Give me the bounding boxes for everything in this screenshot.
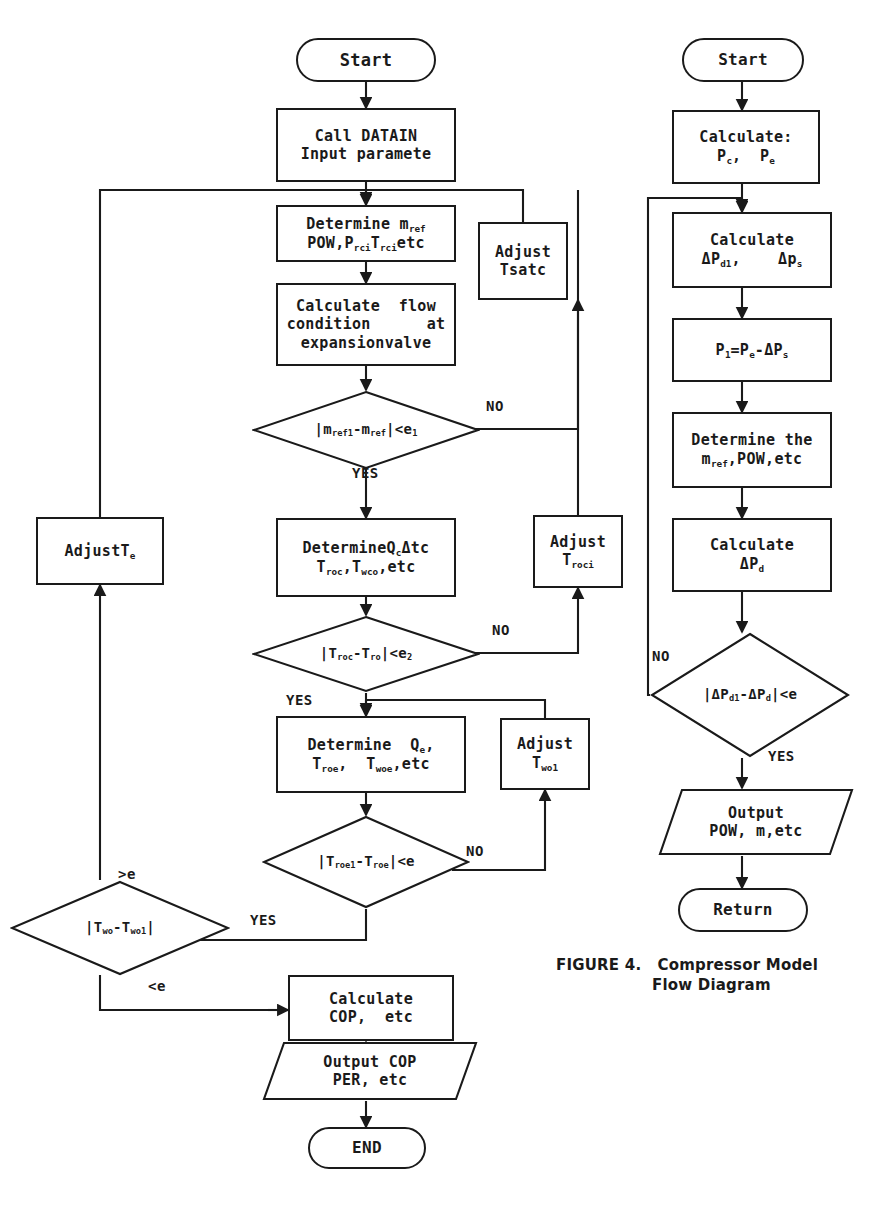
calculate-pc-pe-box: Calculate: Pc, Pe bbox=[672, 110, 820, 184]
determine-mref-pow-line1: Determine the bbox=[691, 431, 812, 449]
p1-equation-box: P1=Pe-ΔPs bbox=[672, 318, 832, 382]
output-cop-line1: Output COP bbox=[323, 1053, 416, 1071]
calculate-dpd-line2: ΔPd bbox=[740, 555, 764, 574]
right-start-terminator: Start bbox=[682, 38, 804, 82]
decision-dp-label: |ΔPd1-ΔPd|<e bbox=[703, 686, 797, 704]
adjust-troci-line2: Troci bbox=[562, 551, 594, 570]
calc-flow-line3: expansionvalve bbox=[301, 334, 432, 352]
decision-mref-label: |mref1-mref|<e1 bbox=[315, 421, 418, 439]
edge-label-right-yes: YES bbox=[768, 748, 795, 764]
calculate-dpd-box: Calculate ΔPd bbox=[672, 518, 832, 592]
calculate-cop-box: Calculate COP, etc bbox=[288, 975, 454, 1041]
calculate-pc-pe-line1: Calculate: bbox=[699, 128, 792, 146]
decision-dp: |ΔPd1-ΔPd|<e bbox=[650, 632, 850, 758]
adjust-tsatc-box: Adjust Tsatc bbox=[478, 222, 568, 300]
decision-troc-label: |Troc-Tro|<e2 bbox=[320, 645, 412, 663]
adjust-troci-box: Adjust Troci bbox=[533, 515, 623, 588]
calculate-pc-pe-line2: Pc, Pe bbox=[717, 147, 775, 166]
calculate-dpd-line1: Calculate bbox=[710, 536, 794, 554]
determine-mref-line1: Determine mref bbox=[306, 215, 425, 234]
call-datain-box: Call DATAIN Input paramete bbox=[276, 108, 456, 182]
adjust-tsatc-line1: Adjust bbox=[495, 243, 551, 261]
determine-mref-box: Determine mref POW,PrciTrcietc bbox=[276, 205, 456, 262]
determine-qc-line2: Troc,Twco,etc bbox=[317, 558, 416, 577]
adjust-tsatc-line2: Tsatc bbox=[500, 261, 547, 279]
edge-label-yes-2: YES bbox=[286, 692, 313, 708]
decision-troe-label: |Troe1-Troe|<e bbox=[317, 853, 415, 871]
determine-qe-line1: Determine Qe, bbox=[308, 736, 435, 755]
determine-mref-pow-box: Determine the mref,POW,etc bbox=[672, 412, 832, 488]
right-return-label: Return bbox=[713, 900, 773, 920]
edge-label-greater-e: >e bbox=[118, 866, 136, 882]
output-pow: Output POW, m,etc bbox=[658, 788, 854, 856]
right-return-terminator: Return bbox=[678, 888, 808, 932]
figure-caption-line1: FIGURE 4. Compressor Model bbox=[556, 955, 818, 975]
calculate-cop-line2: COP, etc bbox=[329, 1008, 413, 1026]
adjust-te-label: AdjustTe bbox=[65, 542, 136, 561]
determine-mref-line2: POW,PrciTrcietc bbox=[307, 234, 425, 253]
calculate-dp-line2: ΔPd1, Δps bbox=[702, 250, 803, 269]
edge-label-no-3: NO bbox=[466, 843, 484, 859]
edge-label-right-no: NO bbox=[652, 648, 670, 664]
output-pow-line1: Output bbox=[728, 804, 784, 822]
determine-qc-box: DetermineQcΔtc Troc,Twco,etc bbox=[276, 518, 456, 597]
calculate-flow-condition-box: Calculate flow condition at expansionval… bbox=[276, 283, 456, 366]
flowchart-canvas: Start Call DATAIN Input paramete Determi… bbox=[0, 0, 890, 1216]
determine-qc-line1: DetermineQcΔtc bbox=[303, 539, 430, 558]
output-cop-line2: PER, etc bbox=[333, 1071, 408, 1089]
edge-label-less-e: <e bbox=[148, 978, 166, 994]
adjust-troci-line1: Adjust bbox=[550, 533, 606, 551]
adjust-te-box: AdjustTe bbox=[36, 517, 164, 585]
decision-troc: |Troc-Tro|<e2 bbox=[252, 615, 480, 693]
decision-mref: |mref1-mref|<e1 bbox=[252, 390, 480, 470]
right-start-label: Start bbox=[718, 50, 768, 70]
left-end-label: END bbox=[352, 1138, 382, 1158]
calculate-cop-line1: Calculate bbox=[329, 990, 413, 1008]
edge-label-no-2: NO bbox=[492, 622, 510, 638]
determine-mref-pow-line2: mref,POW,etc bbox=[702, 450, 803, 469]
calculate-dp-box: Calculate ΔPd1, Δps bbox=[672, 212, 832, 288]
calc-flow-line2: condition at bbox=[287, 315, 446, 333]
call-datain-line2: Input paramete bbox=[301, 145, 432, 163]
determine-qe-box: Determine Qe, Troe, Twoe,etc bbox=[276, 716, 466, 793]
p1-equation-label: P1=Pe-ΔPs bbox=[716, 341, 789, 360]
output-pow-line2: POW, m,etc bbox=[709, 822, 802, 840]
decision-two-label: |Two-Two1| bbox=[85, 919, 155, 937]
decision-troe: |Troe1-Troe|<e bbox=[262, 815, 470, 909]
adjust-two1-line2: Two1 bbox=[532, 754, 558, 773]
calculate-dp-line1: Calculate bbox=[710, 231, 794, 249]
output-cop: Output COP PER, etc bbox=[262, 1041, 478, 1101]
adjust-two1-box: Adjust Two1 bbox=[500, 718, 590, 790]
decision-two: |Two-Two1| bbox=[10, 880, 230, 976]
left-start-label: Start bbox=[340, 50, 393, 71]
figure-caption-line2: Flow Diagram bbox=[652, 975, 771, 995]
edge-label-yes-3: YES bbox=[250, 912, 277, 928]
call-datain-line1: Call DATAIN bbox=[315, 127, 418, 145]
edge-label-no-1: NO bbox=[486, 398, 504, 414]
determine-qe-line2: Troe, Twoe,etc bbox=[312, 755, 430, 774]
edge-label-yes-1: YES bbox=[352, 465, 379, 481]
left-end-terminator: END bbox=[308, 1127, 426, 1169]
adjust-two1-line1: Adjust bbox=[517, 735, 573, 753]
left-start-terminator: Start bbox=[296, 38, 436, 82]
calc-flow-line1: Calculate flow bbox=[296, 297, 436, 315]
